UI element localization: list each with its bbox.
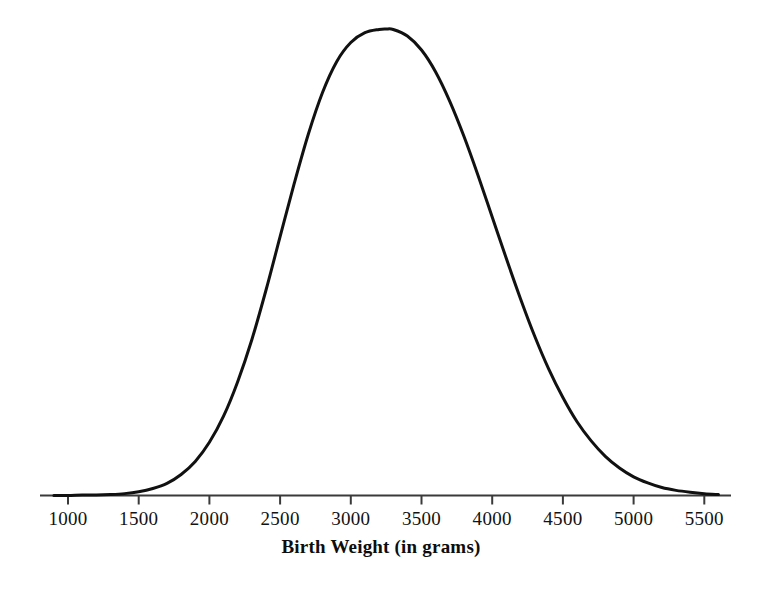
chart-figure: 1000150020002500300035004000450050005500… <box>0 0 762 597</box>
normal-curve <box>54 29 719 496</box>
x-axis-ticks <box>68 496 704 505</box>
x-axis-tick-label: 4500 <box>543 508 582 530</box>
x-axis-tick-label: 2500 <box>260 508 299 530</box>
x-axis-tick-label: 1000 <box>48 508 87 530</box>
x-axis-tick-label: 3000 <box>331 508 370 530</box>
x-axis-title: Birth Weight (in grams) <box>0 536 762 558</box>
x-axis-tick-label: 3500 <box>402 508 441 530</box>
x-axis-tick-label: 5500 <box>685 508 724 530</box>
x-axis-tick-label: 2000 <box>190 508 229 530</box>
x-axis-tick-label: 5000 <box>614 508 653 530</box>
x-axis-tick-label: 1500 <box>119 508 158 530</box>
x-axis-tick-label: 4000 <box>473 508 512 530</box>
